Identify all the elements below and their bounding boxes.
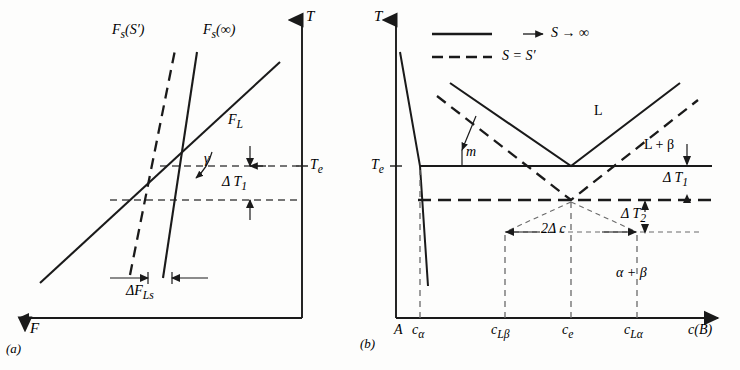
figure-svg [0, 0, 740, 370]
figure-root: T F Fs(S′) Fs(∞) FL γ Te Δ T1 ΔFLs (a) T… [0, 0, 740, 370]
panel-a [18, 20, 308, 323]
panel-a-x-axis-label: F [30, 320, 39, 337]
legend-label-s-infinity: S → ∞ [551, 25, 589, 41]
panel-a-label-fl-text: FL [228, 112, 243, 127]
panel-b-xtick-ce: ce [562, 322, 573, 341]
panel-b-xtick-a: A [394, 322, 403, 338]
panel-b-caption: (b) [360, 336, 375, 352]
panel-b-x-axis-label: c(B) [688, 322, 712, 338]
panel-b-y-axis-label: T [374, 8, 382, 25]
panel-b-xtick-calpha: cα [412, 322, 424, 341]
panel-a-x-arrowhead [18, 313, 29, 323]
panel-a-label-fs-infinity: Fs(∞) [203, 22, 235, 41]
panel-b-xtick-clbeta: cLβ [491, 322, 510, 341]
panel-b-label-delta-t1: Δ T1 [663, 170, 688, 189]
panel-a-delta-t1-arrows [246, 146, 254, 220]
panel-b-solvus-alpha [400, 52, 428, 286]
panel-b-tick-guides [420, 170, 637, 318]
panel-a-label-gamma: γ [204, 151, 210, 167]
panel-b-region-label-l: L [594, 103, 603, 119]
panel-a-label-delta-f: ΔFLs [126, 283, 154, 302]
panel-a-delta-f-arrows [110, 272, 208, 284]
panel-b-liquidus-solid [450, 83, 680, 166]
panel-b-region-label-alpha-beta: α + β [616, 265, 647, 281]
panel-b-region-label-l-beta: L + β [644, 137, 674, 153]
panel-a-y-axis-label: T [306, 8, 314, 25]
panel-a-label-delta-t1: Δ T1 [222, 174, 247, 193]
panel-a-label-fs-sprime: Fs(S′) [112, 22, 145, 41]
panel-a-label-te: Te [310, 157, 323, 176]
legend-label-s-equals-sprime: S = S′ [502, 48, 536, 64]
panel-b-label-te: Te [371, 157, 384, 176]
panel-b-label-delta-c: 2Δ c [541, 221, 566, 237]
panel-b [390, 20, 718, 318]
panel-a-label-fs-sprime-text: Fs(S′) [112, 22, 145, 37]
panel-b-xtick-clalpha: cLα [624, 322, 643, 341]
panel-a-caption: (a) [6, 341, 21, 357]
panel-b-label-delta-t2: Δ T2 [621, 206, 646, 225]
panel-a-label-fs-infinity-text: Fs(∞) [203, 22, 235, 37]
panel-b-label-slope-m: m [466, 144, 476, 160]
panel-a-curve-fl [40, 62, 280, 283]
panel-a-label-fl: FL [228, 112, 243, 131]
